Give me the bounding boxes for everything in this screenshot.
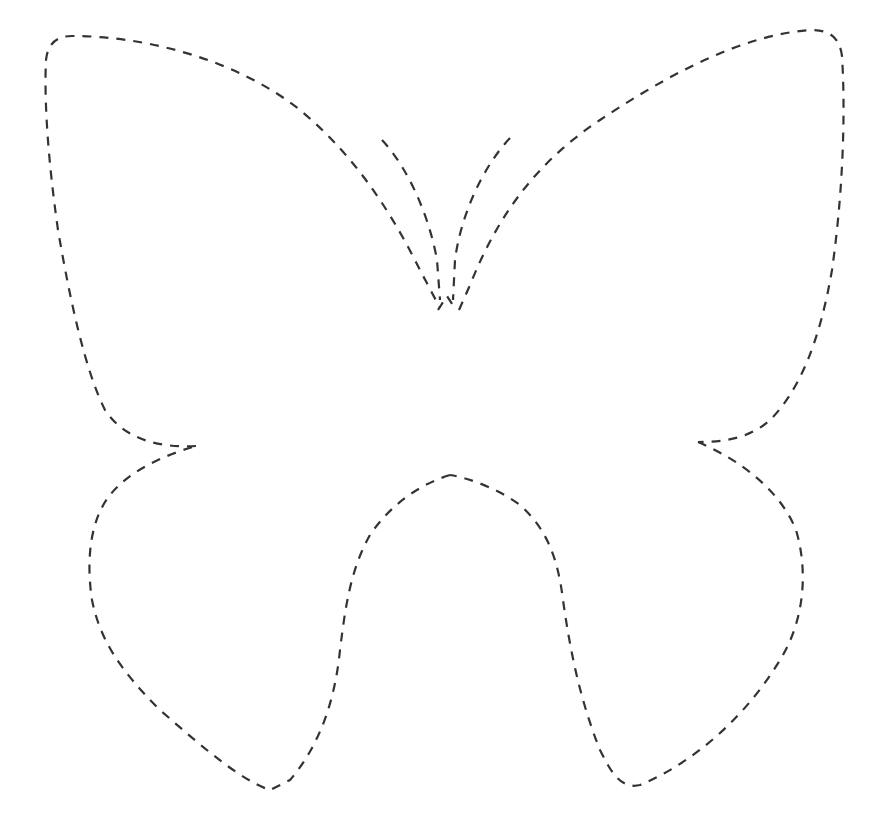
upper-left-wing-outline <box>46 36 441 446</box>
upper-right-wing-outline <box>459 30 844 442</box>
right-antenna-outline <box>453 138 510 300</box>
butterfly-template-canvas <box>0 0 870 816</box>
lower-left-wing-outline <box>89 446 450 790</box>
butterfly-outline-icon <box>0 0 870 816</box>
lower-right-wing-outline <box>450 442 803 786</box>
left-antenna-outline <box>382 140 440 300</box>
